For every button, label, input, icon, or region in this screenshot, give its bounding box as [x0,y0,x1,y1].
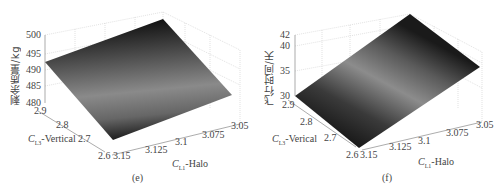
halo-tick: 3.075 [446,128,469,138]
halo-tick: 3.125 [145,145,168,155]
vertical-tick: 2.9 [282,100,295,110]
z-tick: 485 [26,81,41,91]
z-tick: 495 [26,49,41,59]
z-tick: 490 [26,65,41,75]
z-axis-label: 剩余质量/kg [8,46,23,105]
z-tick: 500 [26,30,41,40]
panel-caption: (f) [382,172,392,183]
z-tick: 40 [280,41,290,51]
vertical-tick: 2.7 [324,133,337,143]
halo-tick: 3.1 [418,136,431,146]
halo-tick: 3.15 [113,151,131,161]
vertical-axis-label: CL3-Verical [272,133,317,146]
vertical-tick: 2.6 [346,150,359,160]
halo-tick: 3.15 [360,150,378,160]
vertical-axis-label: CL3-Vertical [28,133,76,146]
z-axis-label: 飞行时间/天 [262,50,277,106]
halo-tick: 3.125 [389,142,412,152]
z-tick: 42 [280,30,290,40]
halo-tick: 3.075 [202,130,225,140]
z-tick: 35 [280,66,290,76]
halo-axis-label: CL1-Halo [418,156,454,169]
chart-panel-f: 飞行时间/天 42 40 35 30 2.9 2.8 2.7 2.6 3.15 … [252,0,504,186]
halo-tick: 3.05 [231,121,249,131]
surface-e [45,19,232,140]
halo-axis-label: CL1-Halo [172,158,208,171]
vertical-tick: 2.8 [300,117,313,127]
vertical-tick: 2.7 [78,134,91,144]
chart-panel-e: 剩余质量/kg 500 495 490 485 480 2.9 2.8 2.7 … [0,0,252,186]
halo-tick: 3.05 [476,120,494,130]
vertical-tick: 2.8 [56,120,69,130]
panel-caption: (e) [132,172,143,183]
halo-tick: 3.1 [175,137,188,147]
vertical-tick: 2.9 [34,106,47,116]
vertical-tick: 2.6 [98,151,111,161]
